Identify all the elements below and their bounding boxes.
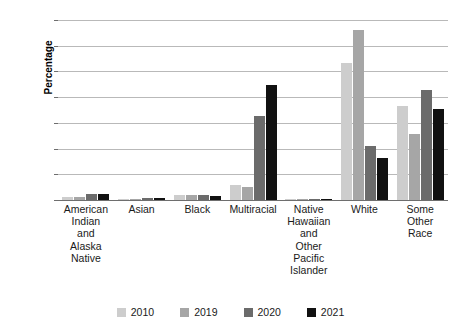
bar [353,30,364,200]
legend-swatch-icon [307,308,316,317]
bar [130,199,141,200]
bar-group [392,20,448,200]
bar [142,198,153,200]
bar [309,199,320,200]
legend-label: 2021 [321,306,344,318]
legend-item[interactable]: 2010 [117,306,154,318]
bar [230,185,241,200]
x-axis-category-label: AmericanIndianandAlaskaNative [58,203,114,276]
legend-label: 2019 [194,306,217,318]
plot-area: 0.010.020.030.040.050.060.070.0 [58,20,448,200]
bar [377,158,388,200]
bar [74,197,85,200]
legend-item[interactable]: 2021 [307,306,344,318]
x-axis-labels: AmericanIndianandAlaskaNativeAsianBlackM… [58,203,448,276]
legend-item[interactable]: 2019 [180,306,217,318]
bar-groups [58,20,448,200]
bar [266,85,277,200]
bar-group [58,20,114,200]
bar-group [114,20,170,200]
x-axis-category-label: Asian [114,203,170,276]
bar [433,109,444,200]
chart-legend: 2010201920202021 [0,306,461,318]
bar [421,90,432,200]
x-axis-category-label: Black [169,203,225,276]
x-axis-line [58,200,448,201]
bar [210,196,221,200]
bar [62,197,73,200]
x-axis-category-label: Some OtherRace [392,203,448,276]
bar [86,194,97,200]
bar [154,198,165,200]
bar [186,195,197,200]
bar [321,199,332,200]
legend-label: 2010 [131,306,154,318]
bar-group [281,20,337,200]
bar-group [169,20,225,200]
x-axis-category-label: White [337,203,393,276]
bar [285,199,296,200]
bar [365,146,376,200]
bar [242,187,253,200]
legend-label: 2020 [258,306,281,318]
legend-swatch-icon [244,308,253,317]
legend-swatch-icon [180,308,189,317]
legend-item[interactable]: 2020 [244,306,281,318]
bar [409,134,420,200]
bar [98,194,109,200]
bar-group [225,20,281,200]
x-axis-category-label: Multiracial [225,203,281,276]
y-axis-title: Percentage [43,22,54,114]
x-axis-category-label: NativeHawaiianandOtherPacificIslander [281,203,337,276]
bar [174,195,185,200]
bar-chart: Percentage 0.010.020.030.040.050.060.070… [0,0,461,329]
bar-group [337,20,393,200]
bar [254,116,265,200]
bar [397,106,408,200]
bar [297,199,308,200]
bar [118,199,129,200]
y-tick-mark [54,200,58,201]
bar [341,63,352,200]
legend-swatch-icon [117,308,126,317]
bar [198,195,209,200]
